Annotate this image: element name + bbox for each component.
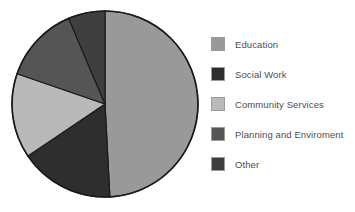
pie-slice[interactable] bbox=[105, 11, 198, 197]
legend-item-label: Education bbox=[235, 39, 278, 50]
pie-chart-figure: Education Social Work Community Services… bbox=[0, 0, 355, 212]
legend-item-label: Other bbox=[235, 159, 259, 170]
legend-swatch-icon bbox=[211, 37, 225, 51]
legend-swatch-icon bbox=[211, 97, 225, 111]
chart-legend: Education Social Work Community Services… bbox=[211, 36, 355, 172]
legend-item-social-work[interactable]: Social Work bbox=[211, 66, 355, 82]
legend-item-education[interactable]: Education bbox=[211, 36, 355, 52]
legend-item-planning-and-enviroment[interactable]: Planning and Enviroment bbox=[211, 126, 355, 142]
legend-swatch-icon bbox=[211, 157, 225, 171]
pie-slice-group bbox=[12, 11, 198, 197]
legend-swatch-icon bbox=[211, 127, 225, 141]
legend-item-community-services[interactable]: Community Services bbox=[211, 96, 355, 112]
legend-item-other[interactable]: Other bbox=[211, 156, 355, 172]
legend-item-label: Community Services bbox=[235, 99, 324, 110]
legend-item-label: Planning and Enviroment bbox=[235, 129, 343, 140]
pie-plot-area bbox=[0, 0, 212, 212]
pie-svg bbox=[0, 0, 212, 212]
legend-swatch-icon bbox=[211, 67, 225, 81]
legend-item-label: Social Work bbox=[235, 69, 287, 80]
